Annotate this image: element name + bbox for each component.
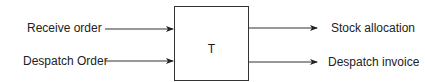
input-label-receive-order: Receive order: [27, 21, 102, 35]
process-label: T: [175, 42, 248, 56]
output-label-despatch-invoice: Despatch invoice: [328, 55, 419, 69]
input-label-despatch-order: Despatch Order: [23, 54, 108, 68]
output-label-stock-allocation: Stock allocation: [331, 21, 415, 35]
io-diagram: Receive order Despatch Order T Stock all…: [0, 0, 425, 82]
process-box: T: [174, 6, 249, 81]
